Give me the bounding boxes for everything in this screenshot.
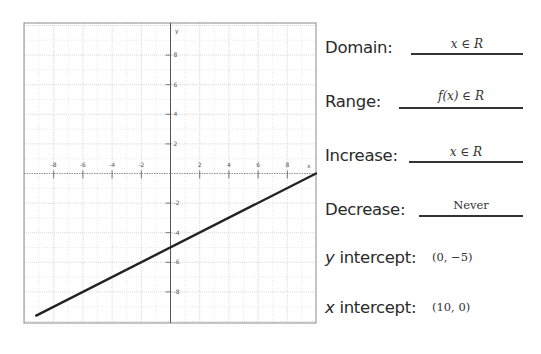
y-axis-label: y [175, 27, 179, 35]
x-tick-label: -2 [138, 161, 144, 168]
x-tick-label: 4 [227, 161, 231, 168]
increase-blank [409, 161, 523, 163]
x-axis-label: x [307, 162, 311, 169]
range-row: Range: f(x) ∈ R [325, 81, 541, 111]
range-answer: f(x) ∈ R [399, 89, 523, 103]
x-tick-label: 8 [285, 161, 289, 168]
x-tick-label: 6 [256, 161, 260, 168]
x-intercept-row: x intercept: (10, 0) [325, 287, 541, 317]
x-tick-label: -6 [80, 161, 86, 168]
y-tick-label: -4 [174, 229, 180, 236]
y-intercept-answer: (0, −5) [432, 250, 473, 264]
decrease-row: Decrease: Never [325, 189, 541, 219]
range-label: Range: [325, 92, 381, 111]
y-intercept-label-text: intercept: [334, 248, 416, 267]
x-intercept-answer: (10, 0) [432, 300, 470, 314]
x-intercept-label: x intercept: [325, 298, 416, 317]
properties-panel: Domain: x ∈ R Range: f(x) ∈ R Increase: … [325, 0, 541, 354]
increase-row: Increase: x ∈ R [325, 135, 541, 165]
y-tick-label: 4 [174, 110, 178, 117]
y-intercept-label: y intercept: [325, 248, 416, 267]
increase-answer: x ∈ R [409, 145, 523, 159]
x-tick-label: 2 [198, 161, 202, 168]
y-tick-label: 2 [174, 140, 178, 147]
domain-label: Domain: [325, 38, 393, 57]
decrease-answer: Never [419, 198, 523, 212]
domain-blank [411, 53, 523, 55]
y-tick-label: 6 [174, 81, 178, 88]
x-tick-label: -4 [109, 161, 115, 168]
y-tick-label: -6 [174, 258, 180, 265]
y-tick-label: 8 [174, 51, 178, 58]
domain-answer: x ∈ R [411, 37, 523, 51]
y-tick-label: -8 [174, 288, 180, 295]
decrease-blank [419, 215, 523, 217]
x-intercept-label-text: intercept: [334, 298, 416, 317]
increase-label: Increase: [325, 146, 398, 165]
x-tick-label: -8 [51, 161, 57, 168]
decrease-label: Decrease: [325, 200, 405, 219]
y-intercept-row: y intercept: (0, −5) [325, 237, 541, 267]
line-graph: -8-6-4-224688642-2-4-6-8 y x [0, 0, 330, 354]
domain-row: Domain: x ∈ R [325, 27, 541, 57]
range-blank [399, 107, 523, 109]
y-tick-label: -2 [174, 199, 180, 206]
